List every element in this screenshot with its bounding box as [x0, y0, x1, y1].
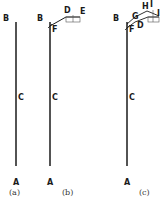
label-c-b: C: [52, 93, 58, 102]
panel-b: B D E F C A (b): [37, 6, 85, 197]
caption-a: (a): [9, 188, 20, 197]
diagram-canvas: B C A (a) B D E F C A (b) B G H I I D F …: [0, 0, 160, 200]
label-a-c: A: [124, 178, 131, 187]
panel-c: B G H I I D F C A (c): [113, 0, 160, 197]
label-a-a: A: [13, 178, 20, 187]
label-e-b: E: [80, 7, 85, 16]
label-i2-c: I: [157, 9, 160, 18]
caption-b: (b): [62, 188, 73, 197]
label-b-c: B: [113, 14, 119, 23]
label-f-c: F: [129, 25, 134, 34]
label-i1-c: I: [150, 0, 153, 9]
caption-c: (c): [139, 188, 150, 197]
label-c-c: C: [129, 93, 135, 102]
label-a-b: A: [47, 178, 54, 187]
label-c-a: C: [18, 93, 24, 102]
label-b-a: B: [3, 14, 9, 23]
label-d-c: D: [137, 21, 144, 30]
label-d-b: D: [64, 6, 71, 15]
label-g-c: G: [132, 12, 139, 21]
label-h-c: H: [142, 2, 149, 11]
panel-a: B C A (a): [3, 14, 24, 197]
label-f-b: F: [52, 25, 57, 34]
label-b-b: B: [37, 14, 43, 23]
